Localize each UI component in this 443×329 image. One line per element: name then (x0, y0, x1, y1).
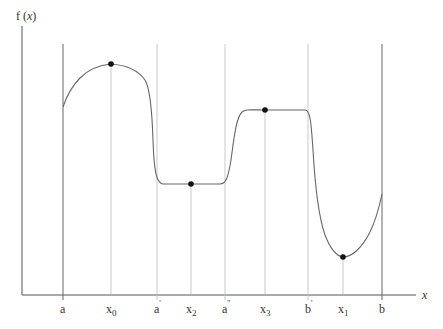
function-diagram: f (x) x a x0 a' x2 a'' x3 b' x1 b (0, 0, 443, 329)
tick-label-x2: x2 (186, 302, 197, 318)
tick-label-a: a (60, 302, 66, 316)
point-x2 (188, 181, 194, 187)
marked-points (108, 61, 346, 260)
tick-labels: a x0 a' x2 a'' x3 b' x1 b (60, 299, 385, 318)
tick-label-b-prime: b' (305, 299, 313, 316)
guide-lines (63, 44, 382, 300)
point-x0 (108, 61, 114, 67)
point-x3 (262, 107, 268, 113)
point-x1 (340, 254, 346, 260)
tick-label-a-double-prime: a'' (222, 299, 231, 316)
tick-label-x0: x0 (106, 302, 117, 318)
tick-label-x3: x3 (260, 302, 271, 318)
tick-label-x1: x1 (338, 302, 349, 318)
tick-label-a-prime: a' (154, 299, 161, 316)
tick-label-b: b (379, 302, 385, 316)
x-axis-label: x (421, 288, 428, 302)
y-axis-label: f (x) (16, 9, 36, 23)
